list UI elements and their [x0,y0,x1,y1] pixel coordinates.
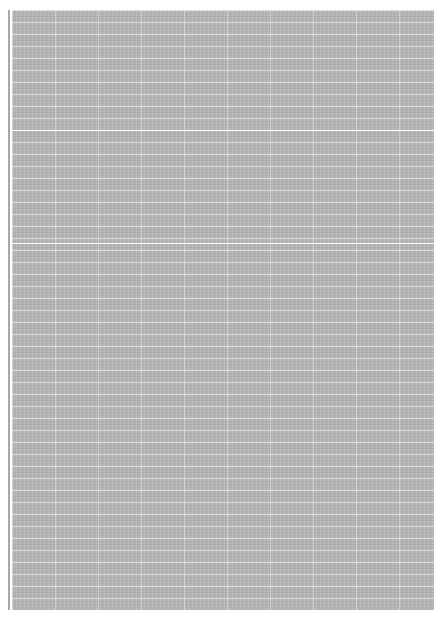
grid-paper-sheet [12,10,434,610]
grid-major-line [12,243,434,244]
sheet-left-edge [8,10,10,610]
grid-major-line [12,130,434,131]
